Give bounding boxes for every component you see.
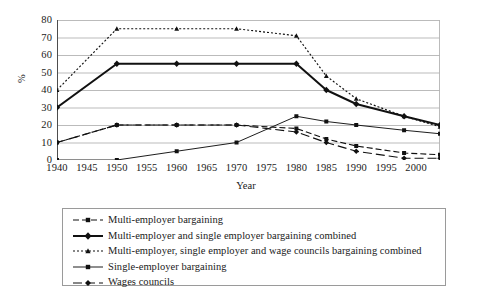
series-line — [57, 125, 440, 155]
data-point-marker — [174, 61, 180, 67]
data-point-marker — [354, 144, 358, 148]
plot-area — [57, 20, 440, 160]
x-axis-title: Year — [0, 180, 492, 191]
data-point-marker — [86, 265, 90, 269]
data-point-marker — [175, 149, 179, 153]
x-axis-tick-labels: 1940194519501955196019651970197519801985… — [57, 163, 440, 177]
y-tick-label: 70 — [41, 32, 52, 43]
x-tick-label: 1975 — [256, 163, 277, 174]
y-axis-tick-labels: 01020304050607080 — [0, 20, 52, 160]
data-point-marker — [57, 158, 59, 160]
data-point-marker — [324, 120, 328, 124]
series-canvas — [57, 20, 440, 160]
x-tick-label: 1940 — [46, 163, 67, 174]
legend-item: Multi-employer and single employer barga… — [63, 229, 445, 244]
legend-line-swatch — [71, 276, 105, 290]
y-tick-label: 30 — [41, 102, 52, 113]
y-tick-label: 10 — [41, 137, 52, 148]
data-point-marker — [294, 33, 299, 38]
series-line — [57, 29, 440, 127]
data-point-marker — [85, 280, 91, 286]
legend-item-label: Single-employer bargaining — [108, 262, 227, 273]
data-point-marker — [84, 232, 91, 239]
y-tick-label: 40 — [41, 85, 52, 96]
legend-item-label: Multi-employer, single employer and wage… — [108, 246, 422, 257]
x-tick-label: 1985 — [316, 163, 337, 174]
data-point-marker — [402, 151, 406, 155]
data-point-marker — [354, 96, 359, 101]
x-tick-label: 1995 — [375, 163, 396, 174]
x-tick-label: 1950 — [106, 163, 127, 174]
y-tick-label: 20 — [41, 120, 52, 131]
data-point-marker — [57, 88, 59, 93]
data-point-marker — [354, 148, 359, 154]
x-tick-label: 1970 — [226, 163, 247, 174]
legend-item-label: Multi-employer bargaining — [108, 215, 223, 226]
data-point-marker — [401, 155, 406, 160]
data-point-marker — [174, 26, 179, 31]
data-point-marker — [235, 141, 239, 145]
data-point-marker — [234, 26, 239, 31]
legend-item: Wages councils — [63, 275, 445, 290]
x-tick-label: 1960 — [166, 163, 187, 174]
legend-item: Multi-employer bargaining — [63, 213, 445, 228]
chart-figure: % 01020304050607080 19401945195019551960… — [0, 0, 492, 296]
data-point-marker — [86, 218, 90, 222]
x-tick-label: 1955 — [136, 163, 157, 174]
series-line — [57, 125, 440, 158]
data-point-marker — [402, 128, 406, 132]
x-tick-label: 1945 — [76, 163, 97, 174]
data-point-marker — [114, 26, 119, 31]
data-point-marker — [353, 101, 359, 107]
x-tick-label: 1965 — [196, 163, 217, 174]
legend-item: Multi-employer, single employer and wage… — [63, 244, 445, 259]
legend-item-label: Wages councils — [108, 277, 174, 288]
legend-line-swatch — [71, 213, 105, 227]
data-point-marker — [115, 158, 119, 160]
data-point-marker — [354, 123, 358, 127]
series-4 — [57, 114, 440, 160]
legend-line-swatch — [71, 260, 105, 274]
legend-line-swatch — [71, 244, 105, 258]
series-line — [57, 116, 440, 160]
series-2 — [57, 61, 440, 129]
data-point-marker — [233, 61, 239, 67]
data-point-marker — [294, 114, 298, 118]
data-point-marker — [438, 132, 440, 136]
y-tick-label: 80 — [41, 15, 52, 26]
y-tick-label: 60 — [41, 50, 52, 61]
legend-item: Single-employer bargaining — [63, 260, 445, 275]
series-3 — [57, 26, 440, 129]
y-tick-label: 50 — [41, 67, 52, 78]
chart-area: % 01020304050607080 19401945195019551960… — [0, 0, 492, 196]
x-tick-label: 2000 — [405, 163, 426, 174]
x-tick-label: 1980 — [286, 163, 307, 174]
legend-item-label: Multi-employer and single employer barga… — [108, 231, 356, 242]
chart-legend: Multi-employer bargainingMulti-employer … — [62, 208, 446, 286]
legend-line-swatch — [71, 229, 105, 243]
x-tick-label: 1990 — [346, 163, 367, 174]
